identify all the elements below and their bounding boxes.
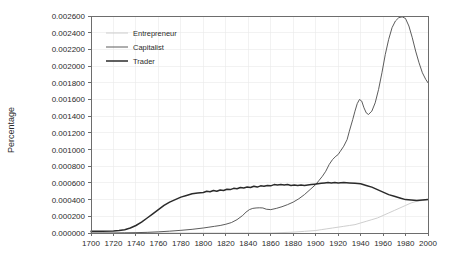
x-tick-label: 1820 [217, 239, 235, 248]
x-tick-label: 1720 [105, 239, 123, 248]
x-tick-label: 1900 [307, 239, 325, 248]
x-tick-label: 1700 [82, 239, 100, 248]
y-tick-label: 0.001200 [52, 129, 86, 138]
y-tick-label: 0.000400 [52, 196, 86, 205]
y-axis-tick-labels: 0.0000000.0002000.0004000.0006000.000800… [52, 12, 86, 238]
x-axis-tick-labels: 1700172017401760178018001820184018601880… [82, 239, 437, 248]
y-tick-label: 0.001400 [52, 112, 86, 121]
x-tick-label: 1780 [172, 239, 190, 248]
y-tick-label: 0.002200 [52, 45, 86, 54]
legend-label-entrepreneur: Entrepreneur [133, 29, 177, 38]
x-tick-label: 1760 [150, 239, 168, 248]
x-tick-label: 1980 [397, 239, 415, 248]
x-tick-label: 1740 [127, 239, 145, 248]
x-tick-label: 1880 [284, 239, 302, 248]
y-tick-label: 0.001000 [52, 146, 86, 155]
x-tick-label: 1940 [352, 239, 370, 248]
y-tick-label: 0.002400 [52, 29, 86, 38]
legend-label-capitalist: Capitalist [133, 43, 165, 52]
x-tick-label: 2000 [419, 239, 437, 248]
y-tick-label: 0.000800 [52, 162, 86, 171]
x-tick-label: 1920 [329, 239, 347, 248]
y-tick-label: 0.001800 [52, 79, 86, 88]
y-tick-label: 0.002600 [52, 12, 86, 21]
x-tick-label: 1960 [374, 239, 392, 248]
x-tick-label: 1800 [194, 239, 212, 248]
x-tick-label: 1840 [239, 239, 257, 248]
legend-label-trader: Trader [133, 57, 155, 66]
y-tick-label: 0.000200 [52, 212, 86, 221]
line-chart: 1700172017401760178018001820184018601880… [0, 0, 453, 260]
y-axis-title: Percentage [6, 107, 16, 153]
y-tick-label: 0.001600 [52, 95, 86, 104]
y-tick-label: 0.000600 [52, 179, 86, 188]
legend: EntrepreneurCapitalistTrader [106, 29, 177, 66]
y-tick-label: 0.002000 [52, 62, 86, 71]
x-tick-label: 1860 [262, 239, 280, 248]
chart-container: 1700172017401760178018001820184018601880… [0, 0, 453, 260]
series-line-trader [91, 183, 428, 232]
y-tick-label: 0.000000 [52, 229, 86, 238]
